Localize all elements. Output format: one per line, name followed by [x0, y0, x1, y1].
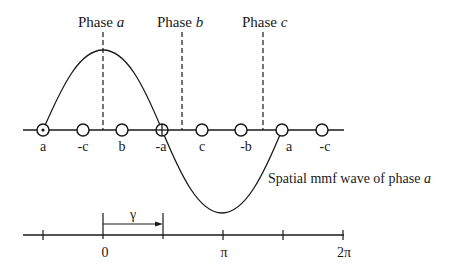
- conductor-label: -b: [240, 139, 252, 154]
- conductor-label: -c: [320, 139, 331, 154]
- conductor-a-2: [276, 124, 288, 136]
- conductor-label: c: [199, 139, 205, 154]
- conductor-c: [196, 124, 208, 136]
- conductor-label: a: [40, 139, 47, 154]
- tick-label-pi: π: [220, 245, 227, 260]
- phase-b-label: Phase b: [157, 14, 204, 30]
- conductor-label: -a: [156, 139, 168, 154]
- conductor-neg-c-1: [77, 124, 89, 136]
- wave-label: Spatial mmf wave of phase a: [268, 171, 431, 186]
- mmf-diagram: Phase a Phase b Phase c a -c b: [0, 0, 449, 272]
- dot-icon: [41, 128, 44, 131]
- tick-label-2pi: 2π: [337, 245, 351, 260]
- phase-a-label: Phase a: [78, 14, 124, 30]
- conductor-neg-a: [156, 124, 168, 136]
- conductor-neg-c-2: [316, 124, 328, 136]
- phase-c-label: Phase c: [242, 14, 288, 30]
- gamma-label: γ: [129, 207, 136, 222]
- conductor-a-1: [37, 124, 49, 136]
- diagram-canvas: Phase a Phase b Phase c a -c b: [0, 0, 449, 272]
- conductor-b: [116, 124, 128, 136]
- conductor-neg-b: [235, 124, 247, 136]
- tick-label-0: 0: [102, 245, 109, 260]
- conductor-label: b: [119, 139, 126, 154]
- conductor-label: -c: [78, 139, 89, 154]
- arrow-head-icon: [155, 222, 163, 227]
- conductor-label: a: [286, 139, 293, 154]
